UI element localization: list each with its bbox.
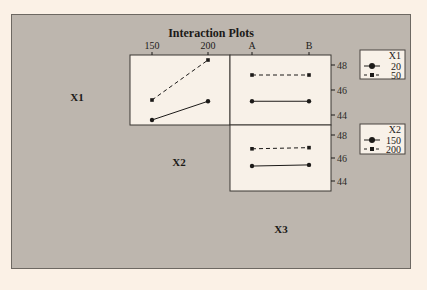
y-tick-label: 44 — [337, 176, 347, 187]
y-tick-label: 46 — [337, 153, 347, 164]
interaction-panel-3: 484644 — [230, 125, 347, 191]
circle-marker — [307, 163, 311, 167]
square-marker — [307, 73, 311, 77]
factor-label-x1: X1 — [70, 91, 83, 103]
square-marker — [206, 58, 210, 62]
plot-area — [130, 55, 230, 125]
square-marker — [250, 73, 254, 77]
circle-marker — [150, 118, 154, 122]
x-tick-label: 150 — [145, 40, 160, 51]
circle-marker — [369, 137, 375, 143]
legend-title: X2 — [389, 124, 401, 135]
y-tick-label: 46 — [337, 85, 347, 96]
interaction-panel-2: AB484644 — [230, 40, 347, 125]
x-tick-label: 200 — [201, 40, 216, 51]
circle-marker — [307, 99, 311, 103]
circle-marker — [250, 99, 254, 103]
y-tick-label: 48 — [337, 60, 347, 71]
interaction-plot-matrix: Interaction PlotsX1X2X3150200AB484644484… — [0, 0, 427, 290]
legend-x1: X12050 — [360, 50, 405, 81]
square-marker — [250, 147, 254, 151]
legend-title: X1 — [389, 50, 401, 61]
legend-x2: X2150200 — [360, 124, 405, 155]
circle-marker — [369, 63, 375, 69]
plot-area — [230, 125, 331, 191]
factor-label-x3: X3 — [274, 223, 288, 235]
y-tick-label: 44 — [337, 110, 347, 121]
circle-marker — [206, 99, 210, 103]
x-tick-label: A — [248, 40, 256, 51]
legend-entry-label: 50 — [391, 70, 401, 81]
square-marker — [370, 73, 374, 77]
square-marker — [370, 147, 374, 151]
factor-label-x2: X2 — [172, 156, 186, 168]
legend-entry-label: 200 — [386, 144, 401, 155]
plot-area — [230, 55, 331, 125]
square-marker — [307, 146, 311, 150]
y-tick-label: 48 — [337, 130, 347, 141]
circle-marker — [250, 164, 254, 168]
x-tick-label: B — [306, 40, 313, 51]
square-marker — [150, 98, 154, 102]
chart-title: Interaction Plots — [168, 26, 254, 40]
interaction-panel-1: 150200 — [130, 40, 230, 125]
